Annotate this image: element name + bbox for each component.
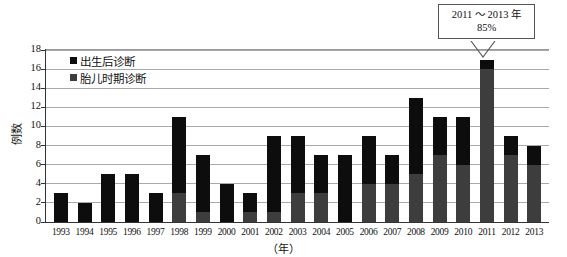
x-tick-label: 2004	[309, 225, 333, 241]
x-tick-label: 2000	[215, 225, 239, 241]
bar-slot	[380, 50, 404, 222]
x-tick-label: 1998	[167, 225, 191, 241]
bar-stack[interactable]	[149, 193, 163, 222]
bar-stack[interactable]	[456, 117, 470, 222]
chart-figure: 2011 ～ 2013 年 85% 024681012141618 出生后诊断 …	[0, 0, 567, 257]
x-tick-label: 2005	[333, 225, 357, 241]
bar-slot	[262, 50, 286, 222]
bar-stack[interactable]	[243, 193, 257, 222]
bar-segment-fetal	[267, 212, 281, 222]
x-tick-label: 2012	[499, 225, 523, 241]
x-tick-label: 1996	[120, 225, 144, 241]
callout-annotation: 2011 ～ 2013 年 85%	[438, 4, 535, 39]
bar-stack[interactable]	[504, 136, 518, 222]
y-tick-label: 2	[19, 197, 41, 208]
bar-segment-postnatal	[125, 174, 139, 222]
bar-segment-fetal	[314, 193, 328, 222]
callout-line-1: 2011 ～ 2013 年	[441, 8, 532, 21]
x-tick-label: 1994	[73, 225, 97, 241]
bar-segment-fetal	[196, 212, 210, 222]
y-tick-mark	[41, 88, 45, 89]
callout-pointer-icon	[470, 41, 496, 58]
y-tick-label: 6	[19, 159, 41, 170]
bar-segment-fetal	[433, 155, 447, 222]
legend-label-postnatal: 出生后诊断	[80, 53, 135, 69]
bar-segment-postnatal	[101, 174, 115, 222]
bar-segment-postnatal	[527, 146, 541, 165]
bar-segment-fetal	[243, 212, 257, 222]
bar-stack[interactable]	[480, 60, 494, 222]
bar-segment-postnatal	[54, 193, 68, 222]
bar-segment-postnatal	[149, 193, 163, 222]
bar-segment-postnatal	[409, 98, 423, 174]
chart-legend: 出生后诊断 胎儿时期诊断	[70, 52, 220, 86]
bar-stack[interactable]	[314, 155, 328, 222]
bar-segment-fetal	[172, 193, 186, 222]
bar-segment-fetal	[480, 69, 494, 222]
legend-item-fetal: 胎儿时期诊断	[70, 69, 220, 86]
bar-segment-postnatal	[267, 136, 281, 212]
y-tick-mark	[41, 126, 45, 127]
bar-stack[interactable]	[527, 146, 541, 222]
bar-segment-postnatal	[338, 155, 352, 222]
bar-stack[interactable]	[291, 136, 305, 222]
bar-stack[interactable]	[54, 193, 68, 222]
y-tick-mark	[41, 145, 45, 146]
bar-slot	[357, 50, 381, 222]
bar-segment-postnatal	[480, 60, 494, 70]
bar-stack[interactable]	[196, 155, 210, 222]
bar-stack[interactable]	[385, 155, 399, 222]
bar-stack[interactable]	[220, 184, 234, 222]
x-tick-label: 1993	[49, 225, 73, 241]
bar-slot	[238, 50, 262, 222]
bar-segment-postnatal	[291, 136, 305, 193]
y-tick-label: 4	[19, 178, 41, 189]
bar-stack[interactable]	[172, 117, 186, 222]
x-tick-label: 2001	[238, 225, 262, 241]
bar-segment-postnatal	[243, 193, 257, 212]
bar-slot	[333, 50, 357, 222]
y-tick-label: 12	[19, 101, 41, 112]
x-tick-label: 2013	[522, 225, 546, 241]
bar-stack[interactable]	[433, 117, 447, 222]
x-tick-label: 2006	[357, 225, 381, 241]
bar-slot	[428, 50, 452, 222]
bar-stack[interactable]	[78, 203, 92, 222]
bar-stack[interactable]	[267, 136, 281, 222]
y-tick-label: 16	[19, 63, 41, 74]
legend-label-fetal: 胎儿时期诊断	[80, 70, 146, 86]
x-tick-label: 2002	[262, 225, 286, 241]
x-axis-title: （年）	[0, 240, 567, 256]
bar-stack[interactable]	[101, 174, 115, 222]
bar-segment-fetal	[527, 165, 541, 222]
bar-segment-postnatal	[362, 136, 376, 184]
bar-stack[interactable]	[125, 174, 139, 222]
x-tick-label: 2010	[451, 225, 475, 241]
bar-segment-postnatal	[385, 155, 399, 184]
y-tick-mark	[41, 202, 45, 203]
callout-line-2: 85%	[441, 21, 532, 34]
y-tick-label: 18	[19, 44, 41, 55]
x-tick-label: 1995	[96, 225, 120, 241]
bar-stack[interactable]	[362, 136, 376, 222]
bar-segment-postnatal	[220, 184, 234, 222]
x-tick-label: 2003	[286, 225, 310, 241]
bar-stack[interactable]	[338, 155, 352, 222]
x-tick-label: 2009	[428, 225, 452, 241]
bar-segment-postnatal	[78, 203, 92, 222]
y-axis-title: 例数	[8, 114, 24, 154]
y-tick-mark	[41, 69, 45, 70]
bar-slot	[451, 50, 475, 222]
y-tick-mark	[41, 164, 45, 165]
legend-swatch-fetal-icon	[70, 74, 77, 81]
x-tick-label: 2011	[475, 225, 499, 241]
y-tick-mark	[41, 50, 45, 51]
bar-segment-fetal	[409, 174, 423, 222]
bar-slot	[309, 50, 333, 222]
bar-slot	[475, 50, 499, 222]
bar-segment-postnatal	[456, 117, 470, 165]
x-tick-label: 2008	[404, 225, 428, 241]
bar-stack[interactable]	[409, 98, 423, 222]
bar-segment-fetal	[385, 184, 399, 222]
x-tick-label: 1999	[191, 225, 215, 241]
